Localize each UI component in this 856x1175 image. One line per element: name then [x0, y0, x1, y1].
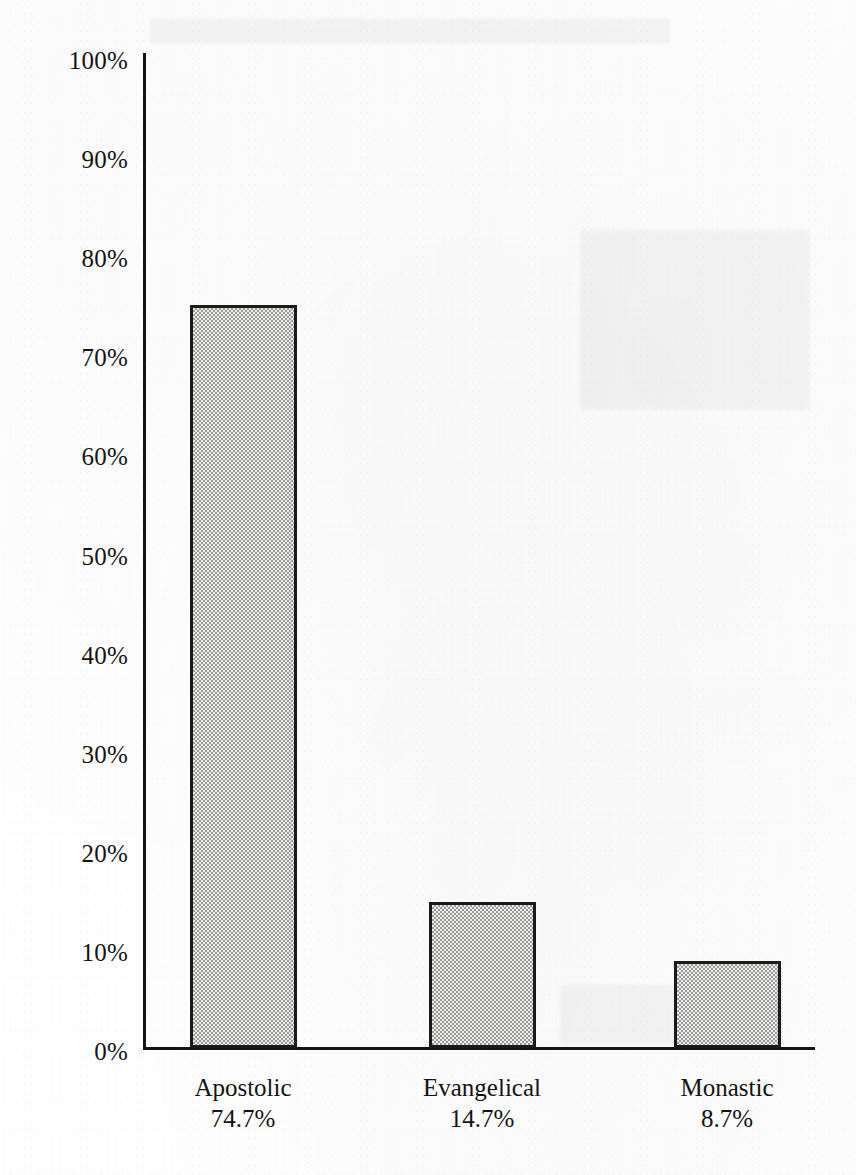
bar-apostolic[interactable]: [190, 305, 297, 1048]
y-tick-label-30: 30%: [24, 742, 128, 767]
x-label-apostolic: Apostolic 74.7%: [123, 1072, 363, 1134]
y-tick-label-70: 70%: [24, 345, 128, 370]
bar-chart: 100% 90% 80% 70% 60% 50% 40% 30% 20% 10%…: [0, 0, 856, 1175]
y-tick-label-20: 20%: [24, 841, 128, 866]
x-label-apostolic-name: Apostolic: [123, 1072, 363, 1103]
x-label-monastic: Monastic 8.7%: [607, 1072, 847, 1134]
y-tick-label-50: 50%: [24, 544, 128, 569]
y-axis-tick-labels: 100% 90% 80% 70% 60% 50% 40% 30% 20% 10%…: [16, 0, 128, 1175]
y-tick-label-90: 90%: [24, 147, 128, 172]
y-tick-label-10: 10%: [24, 940, 128, 965]
x-label-monastic-value: 8.7%: [607, 1103, 847, 1134]
bar-evangelical[interactable]: [429, 902, 536, 1048]
x-label-apostolic-value: 74.7%: [123, 1103, 363, 1134]
y-tick-label-100: 100%: [24, 48, 128, 73]
x-label-evangelical-value: 14.7%: [362, 1103, 602, 1134]
y-tick-label-0: 0%: [24, 1039, 128, 1064]
y-tick-label-80: 80%: [24, 246, 128, 271]
y-axis-line: [143, 53, 146, 1050]
y-tick-label-40: 40%: [24, 643, 128, 668]
x-label-monastic-name: Monastic: [607, 1072, 847, 1103]
bar-monastic[interactable]: [674, 961, 781, 1048]
y-tick-label-60: 60%: [24, 444, 128, 469]
x-label-evangelical: Evangelical 14.7%: [362, 1072, 602, 1134]
x-label-evangelical-name: Evangelical: [362, 1072, 602, 1103]
